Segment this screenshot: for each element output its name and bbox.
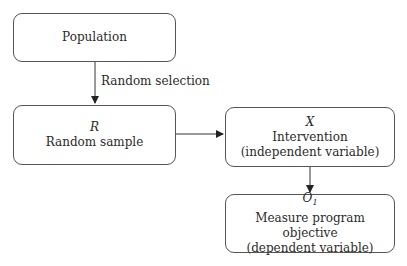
outcome-node: O1 Measure program objective (dependent …	[225, 194, 395, 253]
intervention-label: Intervention	[272, 130, 347, 145]
random-sample-node: R Random sample	[13, 105, 176, 165]
intervention-node: X Intervention (independent variable)	[225, 107, 395, 167]
intervention-sublabel: (independent variable)	[241, 145, 380, 160]
population-label: Population	[62, 30, 127, 45]
intervention-symbol: X	[306, 115, 315, 130]
sample-symbol: R	[90, 120, 99, 135]
outcome-symbol: O1	[303, 191, 318, 210]
random-selection-label: Random selection	[101, 74, 210, 88]
outcome-label: Measure program objective	[226, 211, 394, 241]
sample-label: Random sample	[46, 135, 144, 150]
outcome-sublabel: (dependent variable)	[246, 241, 373, 256]
population-node: Population	[13, 13, 176, 62]
